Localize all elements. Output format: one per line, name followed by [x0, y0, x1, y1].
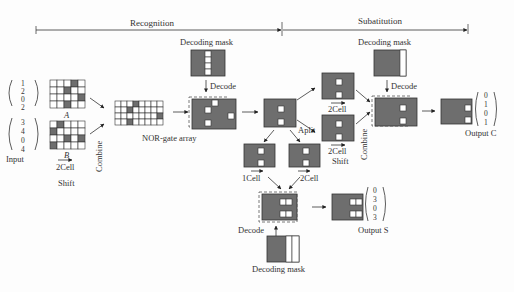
lower-left-shift-label: 1Cell [242, 173, 261, 183]
svg-text:0: 0 [373, 186, 377, 195]
shift-label: Shift [58, 178, 75, 188]
arrow-a-to-combine [90, 98, 104, 108]
input-vector-a: 1 2 0 2 [9, 79, 38, 112]
grid-b-label: B [64, 150, 69, 160]
grid-a-label: A [63, 110, 70, 120]
subst-decoding-mask [374, 50, 406, 76]
lower-right-shift-label: 2Cell [300, 173, 319, 183]
output-s-vector: 0 3 0 3 [366, 186, 386, 222]
recognition-label: Recognition [130, 18, 174, 28]
nor-gate-label: NOR-gate array [142, 133, 197, 143]
lower-decode-label: Decode [238, 225, 264, 235]
svg-text:0: 0 [373, 204, 377, 213]
mid-shift-label: Shift [332, 156, 349, 166]
grid-b [50, 121, 85, 149]
svg-text:3: 3 [373, 195, 377, 204]
nor-gate-array [115, 101, 163, 125]
arrow-split-top [297, 88, 315, 100]
arrow-split-lower-left [264, 130, 274, 142]
split-source-block [264, 99, 296, 127]
mid-shift-amount: 2Cell [328, 146, 347, 156]
input-vector-b: 3 4 0 4 [9, 118, 38, 154]
input-label: Input [6, 154, 25, 164]
header-ranges: Recognition Subatitution [36, 16, 468, 36]
output-c-vector: 0 1 0 1 [476, 91, 497, 127]
subst-top-block [322, 73, 354, 99]
subst-decode-label: Decode [391, 81, 417, 91]
recognition-mask-label: Decoding mask [180, 37, 234, 47]
svg-text:0: 0 [21, 136, 25, 145]
subst-combine-label: Combine [359, 129, 369, 160]
svg-text:1: 1 [484, 100, 488, 109]
lower-mask-label: Decoding mask [252, 264, 306, 274]
svg-text:0: 0 [484, 91, 488, 100]
top-shift-label: 2Cell [328, 104, 347, 114]
subst-decoded-block [375, 98, 417, 126]
subst-mask-label: Decoding mask [358, 37, 412, 47]
recognition-decoded-block [192, 99, 236, 129]
svg-text:4: 4 [21, 127, 25, 136]
svg-text:4: 4 [21, 145, 25, 154]
svg-text:0: 0 [484, 109, 488, 118]
output-s-label: Output S [358, 225, 389, 235]
arrow-lower-left-combine [268, 177, 281, 189]
output-c-block [441, 99, 472, 124]
output-c-label: Output C [465, 128, 497, 138]
lower-decoded-block [262, 194, 297, 220]
svg-text:3: 3 [373, 213, 377, 222]
arrow-mid-to-combine [356, 112, 370, 124]
diagram-canvas: Recognition Subatitution 1 2 0 2 3 4 0 4… [0, 0, 514, 292]
arrow-lower-right-combine [289, 177, 300, 189]
substitution-label: Subatitution [358, 16, 403, 26]
svg-text:1: 1 [484, 118, 488, 127]
arrow-b-to-combine [90, 124, 104, 134]
lower-left-block [244, 144, 275, 167]
lower-right-block [289, 144, 320, 167]
subst-mid-block [322, 115, 354, 141]
arrow-top-to-combine [356, 90, 370, 102]
output-s-block [332, 194, 363, 220]
svg-text:2: 2 [21, 103, 25, 112]
grid-a [50, 80, 85, 108]
shift-amount: 2Cell [56, 162, 75, 172]
recognition-decoding-mask [191, 50, 225, 76]
combine-label: Combine [94, 141, 104, 172]
recognition-decode-label: Decode [210, 81, 236, 91]
svg-text:3: 3 [21, 118, 25, 127]
lower-decoding-mask [267, 236, 299, 262]
